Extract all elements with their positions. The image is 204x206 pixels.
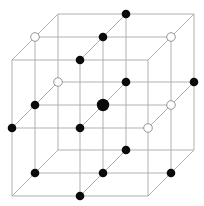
filled-site-marker <box>122 146 131 155</box>
filled-site-marker <box>76 56 85 65</box>
filled-site-marker <box>76 124 85 133</box>
filled-site-marker <box>99 33 108 42</box>
filled-site-marker <box>31 101 40 110</box>
filled-site-marker <box>8 124 17 133</box>
filled-site-marker <box>122 78 131 87</box>
open-site-marker <box>144 124 153 133</box>
open-site-marker <box>167 101 176 110</box>
filled-site-marker <box>76 192 85 201</box>
filled-site-marker <box>122 10 131 19</box>
lattice-markers <box>8 10 199 201</box>
filled-site-marker <box>190 78 199 87</box>
filled-site-marker <box>31 169 40 178</box>
open-site-marker <box>167 33 176 42</box>
open-site-marker <box>31 33 40 42</box>
filled-site-marker <box>167 169 176 178</box>
cubic-lattice-diagram <box>0 0 204 206</box>
open-site-marker <box>54 78 63 87</box>
filled-site-marker <box>99 169 108 178</box>
center-site-marker <box>97 99 109 111</box>
